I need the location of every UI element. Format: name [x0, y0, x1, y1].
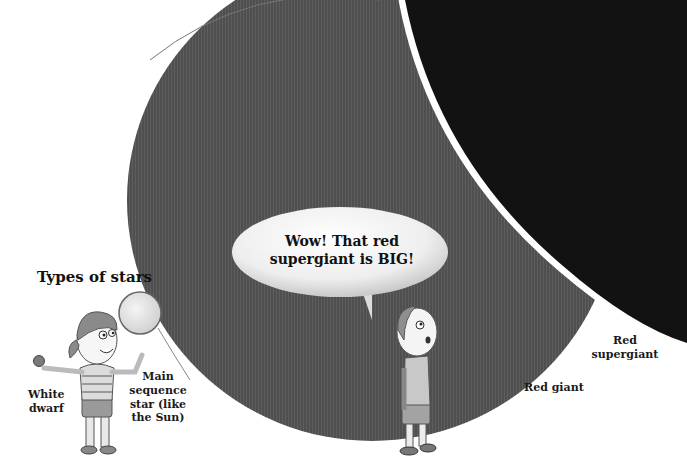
red-supergiant-label: Red supergiant — [590, 334, 660, 362]
speech-bubble-text: Wow! That red supergiant is BIG! — [262, 232, 422, 268]
main-sequence-label-line: Main — [128, 370, 188, 384]
white-dwarf-star — [34, 356, 45, 367]
main-sequence-label: Main sequence star (like the Sun) — [128, 370, 188, 425]
white-dwarf-label: White dwarf — [28, 388, 65, 416]
red-supergiant-label-line: supergiant — [590, 348, 660, 362]
main-sequence-label-line: star (like — [128, 398, 188, 412]
main-sequence-label-line: the Sun) — [128, 411, 188, 425]
main-sequence-label-line: sequence — [128, 384, 188, 398]
white-dwarf-label-line: dwarf — [28, 402, 65, 416]
speech-line-2: supergiant is BIG! — [262, 250, 422, 268]
speech-line-1: Wow! That red — [262, 232, 422, 250]
white-dwarf-label-line: White — [28, 388, 65, 402]
red-supergiant-label-line: Red — [590, 334, 660, 348]
page-title: Types of stars — [37, 268, 152, 286]
red-giant-label: Red giant — [524, 381, 584, 395]
